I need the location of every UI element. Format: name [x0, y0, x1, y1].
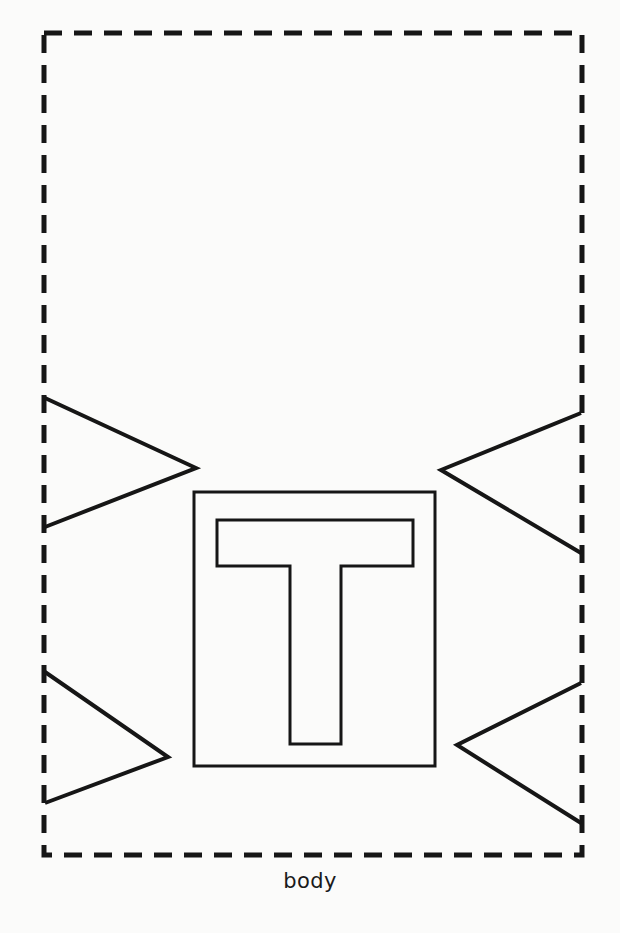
figure-background: [0, 0, 620, 933]
figure-canvas: body: [0, 0, 620, 933]
line-art-figure: [0, 0, 620, 933]
